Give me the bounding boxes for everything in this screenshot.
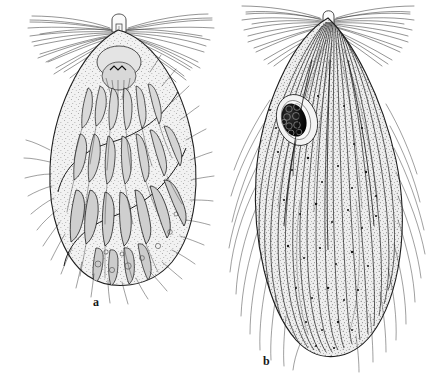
illustration-plate: a b	[0, 0, 440, 380]
figure-a-artwork	[24, 14, 214, 304]
figure-b-label: b	[263, 355, 270, 367]
figure-b-artwork	[229, 6, 425, 372]
plate-artwork	[0, 0, 440, 380]
figure-a-label: a	[93, 296, 99, 308]
